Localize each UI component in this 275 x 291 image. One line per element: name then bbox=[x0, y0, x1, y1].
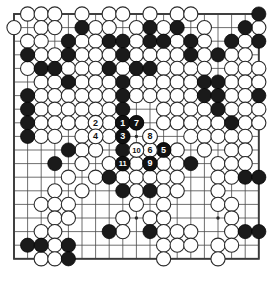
white-stone[interactable] bbox=[184, 75, 198, 89]
white-stone[interactable] bbox=[184, 225, 198, 239]
white-stone[interactable] bbox=[34, 225, 48, 239]
black-stone[interactable] bbox=[197, 75, 211, 89]
white-stone[interactable] bbox=[61, 116, 75, 130]
white-stone[interactable] bbox=[225, 48, 239, 62]
white-stone[interactable] bbox=[129, 34, 143, 48]
white-stone[interactable] bbox=[197, 102, 211, 116]
white-stone[interactable] bbox=[184, 238, 198, 252]
white-stone[interactable] bbox=[102, 48, 116, 62]
white-stone[interactable] bbox=[143, 7, 157, 21]
white-stone[interactable] bbox=[102, 157, 116, 171]
white-stone[interactable] bbox=[238, 75, 252, 89]
white-stone[interactable] bbox=[75, 116, 89, 130]
white-stone[interactable] bbox=[34, 197, 48, 211]
white-stone[interactable] bbox=[48, 48, 62, 62]
white-stone[interactable] bbox=[102, 116, 116, 130]
black-stone[interactable] bbox=[75, 21, 89, 35]
black-stone[interactable] bbox=[238, 225, 252, 239]
white-stone[interactable] bbox=[252, 61, 266, 75]
white-stone[interactable] bbox=[61, 197, 75, 211]
white-stone[interactable] bbox=[238, 102, 252, 116]
white-stone[interactable] bbox=[225, 75, 239, 89]
white-stone[interactable] bbox=[170, 61, 184, 75]
white-stone[interactable] bbox=[211, 252, 225, 266]
white-stone[interactable] bbox=[211, 116, 225, 130]
black-stone[interactable] bbox=[61, 143, 75, 157]
white-stone[interactable] bbox=[225, 61, 239, 75]
black-stone[interactable] bbox=[116, 75, 130, 89]
white-stone[interactable] bbox=[225, 129, 239, 143]
white-stone[interactable] bbox=[34, 102, 48, 116]
black-stone[interactable] bbox=[252, 34, 266, 48]
black-stone[interactable] bbox=[238, 170, 252, 184]
white-stone[interactable] bbox=[197, 48, 211, 62]
white-stone[interactable] bbox=[61, 170, 75, 184]
white-stone[interactable] bbox=[48, 75, 62, 89]
white-stone[interactable] bbox=[75, 129, 89, 143]
white-stone[interactable] bbox=[34, 89, 48, 103]
white-stone[interactable] bbox=[157, 21, 171, 35]
white-stone[interactable] bbox=[157, 170, 171, 184]
white-stone[interactable] bbox=[252, 102, 266, 116]
white-stone[interactable] bbox=[184, 102, 198, 116]
black-stone[interactable] bbox=[252, 170, 266, 184]
white-stone[interactable] bbox=[34, 34, 48, 48]
white-stone[interactable] bbox=[184, 61, 198, 75]
black-stone[interactable] bbox=[197, 89, 211, 103]
white-stone[interactable] bbox=[252, 21, 266, 35]
white-stone[interactable] bbox=[143, 75, 157, 89]
white-stone[interactable] bbox=[170, 7, 184, 21]
white-stone[interactable] bbox=[21, 7, 35, 21]
white-stone[interactable] bbox=[184, 89, 198, 103]
black-stone[interactable] bbox=[143, 61, 157, 75]
black-stone[interactable] bbox=[48, 157, 62, 171]
white-stone[interactable] bbox=[129, 89, 143, 103]
white-stone[interactable] bbox=[211, 197, 225, 211]
black-stone[interactable] bbox=[170, 21, 184, 35]
white-stone[interactable] bbox=[143, 48, 157, 62]
white-stone[interactable] bbox=[7, 21, 21, 35]
white-stone[interactable] bbox=[61, 89, 75, 103]
white-stone[interactable] bbox=[238, 61, 252, 75]
goban-canvas[interactable]: 1234567891011 bbox=[0, 0, 275, 291]
white-stone[interactable] bbox=[116, 61, 130, 75]
black-stone[interactable] bbox=[143, 21, 157, 35]
white-stone[interactable] bbox=[34, 116, 48, 130]
white-stone[interactable] bbox=[197, 21, 211, 35]
white-stone[interactable] bbox=[225, 102, 239, 116]
white-stone[interactable] bbox=[21, 61, 35, 75]
white-stone[interactable] bbox=[197, 34, 211, 48]
black-stone[interactable] bbox=[61, 75, 75, 89]
white-stone[interactable] bbox=[48, 197, 62, 211]
white-stone[interactable] bbox=[238, 34, 252, 48]
white-stone[interactable] bbox=[89, 48, 103, 62]
black-stone[interactable] bbox=[116, 48, 130, 62]
white-stone[interactable] bbox=[48, 252, 62, 266]
white-stone[interactable] bbox=[238, 116, 252, 130]
white-stone[interactable] bbox=[184, 129, 198, 143]
white-stone[interactable] bbox=[170, 102, 184, 116]
white-stone[interactable] bbox=[89, 143, 103, 157]
white-stone[interactable] bbox=[48, 225, 62, 239]
white-stone[interactable] bbox=[143, 170, 157, 184]
white-stone[interactable] bbox=[238, 157, 252, 171]
white-stone[interactable] bbox=[75, 7, 89, 21]
black-stone[interactable] bbox=[143, 184, 157, 198]
white-stone[interactable] bbox=[34, 129, 48, 143]
white-stone[interactable] bbox=[75, 102, 89, 116]
white-stone[interactable] bbox=[225, 225, 239, 239]
black-stone[interactable] bbox=[143, 34, 157, 48]
white-stone[interactable] bbox=[102, 89, 116, 103]
white-stone[interactable] bbox=[157, 48, 171, 62]
white-stone[interactable] bbox=[238, 143, 252, 157]
white-stone[interactable] bbox=[34, 252, 48, 266]
white-stone[interactable] bbox=[48, 102, 62, 116]
white-stone[interactable] bbox=[157, 252, 171, 266]
white-stone[interactable] bbox=[75, 143, 89, 157]
black-stone[interactable] bbox=[116, 34, 130, 48]
white-stone[interactable] bbox=[197, 61, 211, 75]
white-stone[interactable] bbox=[129, 48, 143, 62]
black-stone[interactable] bbox=[21, 48, 35, 62]
white-stone[interactable] bbox=[89, 21, 103, 35]
black-stone[interactable] bbox=[252, 225, 266, 239]
